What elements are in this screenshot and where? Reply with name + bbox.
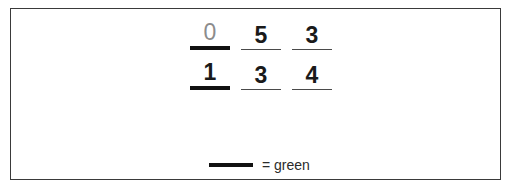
underline-r1c1 (190, 46, 230, 50)
digit-cell-r1c3: 3 (291, 22, 333, 51)
digit-r2c1: 1 (204, 59, 217, 85)
underline-r2c3 (292, 89, 332, 91)
digit-row-1: 0 5 3 (189, 19, 339, 50)
legend-label: = green (262, 157, 310, 173)
digit-r1c2: 5 (255, 22, 268, 48)
digit-grid: 0 5 3 1 3 4 (189, 19, 339, 99)
digit-r1c1: 0 (204, 19, 217, 45)
digit-cell-r2c3: 4 (291, 62, 333, 91)
digit-cell-r1c1: 0 (189, 19, 231, 50)
legend: = green (209, 157, 310, 173)
digit-r2c2: 3 (255, 62, 268, 88)
digit-r2c3: 4 (306, 62, 319, 88)
digit-cell-r2c1: 1 (189, 59, 231, 90)
figure-frame: 0 5 3 1 3 4 (10, 8, 501, 180)
digit-r1c3: 3 (306, 22, 319, 48)
underline-r2c2 (241, 89, 281, 91)
underline-r1c3 (292, 49, 332, 51)
underline-r2c1 (190, 86, 230, 90)
digit-cell-r1c2: 5 (240, 22, 282, 51)
digit-row-2: 1 3 4 (189, 59, 339, 90)
digit-cell-r2c2: 3 (240, 62, 282, 91)
underline-r1c2 (241, 49, 281, 51)
legend-line-swatch-icon (209, 163, 253, 167)
